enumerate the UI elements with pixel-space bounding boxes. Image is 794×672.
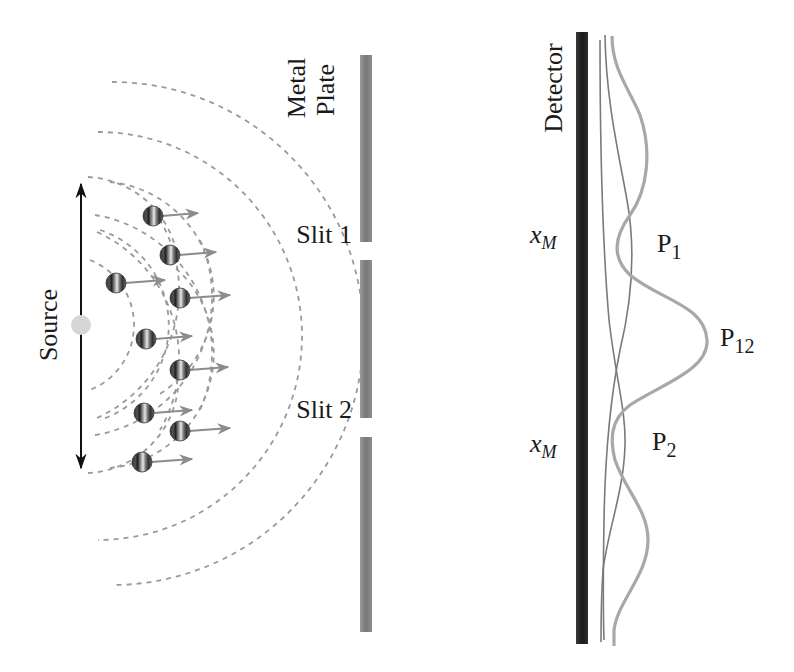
metal-plate	[360, 55, 372, 632]
particle	[170, 360, 228, 380]
double-slit-diagram: Source Metal Plate Slit 1 Slit 2 Detecto…	[0, 0, 794, 672]
particle-ball	[132, 452, 152, 472]
wavefronts	[88, 82, 363, 585]
particle-velocity-arrow	[179, 252, 216, 255]
plate-segment-1	[360, 55, 372, 242]
probability-curves	[600, 35, 707, 646]
particle	[143, 206, 198, 226]
source-dot	[71, 315, 91, 335]
particle-ball	[136, 329, 156, 349]
p12-curve	[612, 36, 707, 646]
xm-label-top: xM	[529, 220, 558, 253]
p1-curve	[603, 35, 632, 640]
metal-plate-label-line1: Metal	[282, 58, 311, 119]
plate-segment-3	[360, 437, 372, 632]
particle-ball	[160, 245, 180, 265]
particle-ball	[170, 288, 190, 308]
particle-velocity-arrow	[151, 459, 192, 462]
particle-velocity-arrow	[155, 336, 192, 339]
particle-velocity-arrow	[162, 213, 198, 216]
particle-velocity-arrow	[189, 295, 230, 298]
particle-ball	[106, 273, 126, 293]
plate-segment-2	[360, 260, 372, 418]
particle	[134, 403, 192, 423]
wavefront-arc-mid	[98, 132, 302, 540]
source-label: Source	[34, 289, 63, 361]
particle-ball	[134, 403, 154, 423]
particle	[136, 329, 192, 349]
particle-ball	[170, 421, 190, 441]
p12-label: P12	[720, 323, 754, 357]
slit2-label: Slit 2	[296, 395, 352, 424]
particle-velocity-arrow	[189, 367, 228, 370]
p1-label: P1	[657, 229, 681, 263]
particle-ball	[143, 206, 163, 226]
detector-screen	[576, 32, 588, 644]
particle	[170, 288, 230, 308]
wavefront-arc-cross-1	[95, 215, 212, 410]
particle	[170, 421, 230, 441]
xm-label-bottom: xM	[529, 429, 558, 462]
particle-velocity-arrow	[189, 428, 230, 431]
particle-ball	[170, 360, 190, 380]
slit1-label: Slit 1	[296, 220, 352, 249]
particle	[132, 452, 192, 472]
detector-label: Detector	[539, 43, 568, 133]
p2-label: P2	[652, 427, 676, 461]
metal-plate-label-line2: Plate	[311, 64, 340, 116]
